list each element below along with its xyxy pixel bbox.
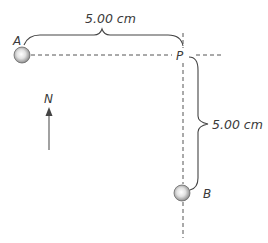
point-p-label: P <box>176 49 184 63</box>
point-b-label: B <box>203 187 211 201</box>
sphere-icon <box>174 185 190 201</box>
sphere-icon <box>14 47 30 63</box>
vertical-dimension-label: 5.00 cm <box>212 117 263 132</box>
horizontal-dimension-brace <box>24 29 183 46</box>
horizontal-dimension-label: 5.00 cm <box>85 11 136 26</box>
north-arrow-icon <box>46 107 53 150</box>
point-a-label: A <box>12 34 21 48</box>
north-label: N <box>44 92 53 106</box>
vertical-dimension-brace <box>189 57 208 190</box>
diagram-canvas: 5.00 cm 5.00 cm A P B N <box>0 0 268 243</box>
